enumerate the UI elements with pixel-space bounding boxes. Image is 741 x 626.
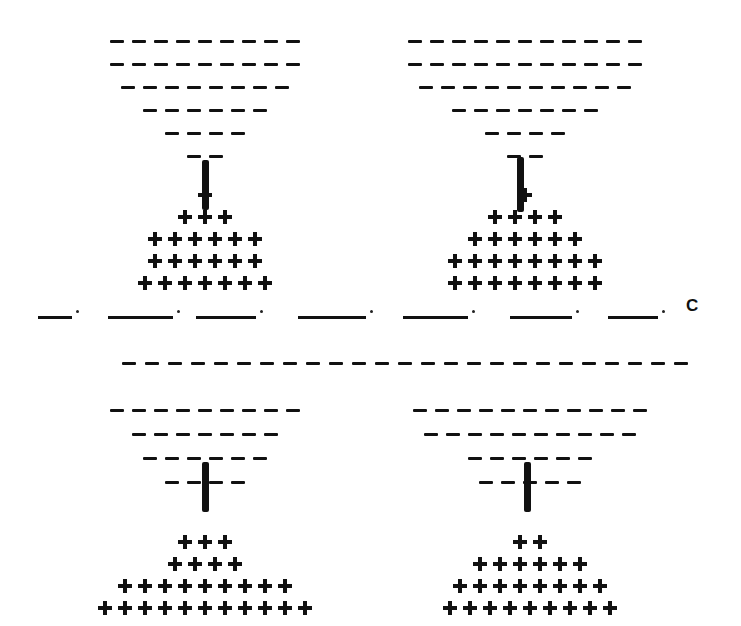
dash-mark bbox=[165, 86, 179, 89]
plus-mark bbox=[218, 579, 232, 593]
dash-mark bbox=[264, 409, 278, 412]
dash-mark bbox=[501, 481, 515, 484]
dash-mark bbox=[595, 86, 609, 89]
plus-mark bbox=[228, 557, 242, 571]
dash-mark bbox=[187, 457, 201, 460]
plus-mark bbox=[208, 557, 222, 571]
dash-mark bbox=[606, 40, 620, 43]
dash-mark bbox=[398, 362, 412, 365]
plus-mark bbox=[508, 254, 522, 268]
plus-mark bbox=[258, 276, 272, 290]
neck-bar bbox=[524, 462, 531, 512]
divider-segment bbox=[38, 316, 72, 319]
divider-dot bbox=[177, 310, 180, 313]
dash-mark bbox=[501, 409, 515, 412]
dash-mark bbox=[485, 132, 499, 135]
plus-mark bbox=[473, 557, 487, 571]
dash-mark bbox=[237, 362, 251, 365]
plus-mark bbox=[583, 601, 597, 615]
plus-mark bbox=[188, 557, 202, 571]
plus-mark bbox=[178, 210, 192, 224]
dash-mark bbox=[424, 433, 438, 436]
plus-mark bbox=[238, 579, 252, 593]
dash-mark bbox=[122, 362, 136, 365]
dash-mark bbox=[154, 409, 168, 412]
plus-mark bbox=[468, 276, 482, 290]
dash-mark bbox=[578, 457, 592, 460]
dash-mark bbox=[584, 63, 598, 66]
dash-mark bbox=[209, 155, 223, 158]
plus-mark bbox=[238, 276, 252, 290]
dash-mark bbox=[513, 362, 527, 365]
dash-mark bbox=[617, 86, 631, 89]
plus-mark bbox=[528, 276, 542, 290]
plus-mark bbox=[533, 579, 547, 593]
plus-mark bbox=[468, 232, 482, 246]
plus-mark bbox=[258, 601, 272, 615]
dash-mark bbox=[165, 132, 179, 135]
dash-mark bbox=[187, 155, 201, 158]
dash-mark bbox=[441, 86, 455, 89]
dash-mark bbox=[567, 409, 581, 412]
dash-mark bbox=[110, 63, 124, 66]
plus-mark bbox=[493, 579, 507, 593]
dash-mark bbox=[633, 409, 647, 412]
dash-mark bbox=[275, 86, 289, 89]
dash-mark bbox=[507, 132, 521, 135]
dash-mark bbox=[191, 362, 205, 365]
plus-mark bbox=[198, 276, 212, 290]
figure-label: C bbox=[686, 296, 698, 316]
plus-mark bbox=[218, 276, 232, 290]
plus-mark bbox=[138, 579, 152, 593]
dash-mark bbox=[479, 481, 493, 484]
dash-mark bbox=[132, 63, 146, 66]
dash-mark bbox=[375, 362, 389, 365]
plus-mark bbox=[188, 254, 202, 268]
dash-mark bbox=[479, 409, 493, 412]
dash-mark bbox=[430, 40, 444, 43]
plus-mark bbox=[158, 276, 172, 290]
divider-segment bbox=[196, 316, 256, 319]
plus-mark bbox=[508, 210, 522, 224]
dash-mark bbox=[556, 433, 570, 436]
divider-dot bbox=[76, 310, 79, 313]
dash-mark bbox=[651, 362, 665, 365]
neck-bar bbox=[202, 160, 209, 210]
dash-mark bbox=[534, 433, 548, 436]
plus-mark bbox=[523, 601, 537, 615]
dash-mark bbox=[329, 362, 343, 365]
dash-mark bbox=[176, 433, 190, 436]
plus-mark bbox=[533, 557, 547, 571]
dash-mark bbox=[121, 86, 135, 89]
dash-mark bbox=[559, 362, 573, 365]
dash-mark bbox=[286, 409, 300, 412]
plus-mark bbox=[548, 232, 562, 246]
dash-mark bbox=[198, 63, 212, 66]
dash-mark bbox=[176, 409, 190, 412]
plus-mark bbox=[168, 232, 182, 246]
dash-mark bbox=[529, 86, 543, 89]
dash-mark bbox=[430, 63, 444, 66]
dash-mark bbox=[231, 481, 245, 484]
dash-mark bbox=[584, 109, 598, 112]
dash-mark bbox=[567, 481, 581, 484]
plus-mark bbox=[198, 210, 212, 224]
plus-mark bbox=[208, 254, 222, 268]
dash-mark bbox=[545, 481, 559, 484]
plus-mark bbox=[568, 232, 582, 246]
dash-mark bbox=[253, 109, 267, 112]
dash-mark bbox=[485, 86, 499, 89]
dash-mark bbox=[165, 109, 179, 112]
plus-mark bbox=[118, 601, 132, 615]
divider-segment bbox=[108, 316, 173, 319]
dash-mark bbox=[154, 433, 168, 436]
dash-mark bbox=[209, 109, 223, 112]
dash-mark bbox=[209, 457, 223, 460]
plus-mark bbox=[488, 254, 502, 268]
dash-mark bbox=[286, 63, 300, 66]
plus-mark bbox=[513, 579, 527, 593]
plus-mark bbox=[178, 601, 192, 615]
dash-mark bbox=[467, 362, 481, 365]
dash-mark bbox=[231, 132, 245, 135]
dash-mark bbox=[628, 362, 642, 365]
